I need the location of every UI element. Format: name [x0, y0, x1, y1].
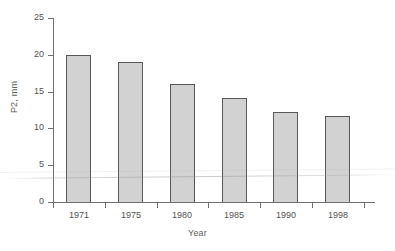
x-tick-label: 1975	[121, 210, 141, 220]
x-tick	[312, 203, 313, 208]
x-axis-label: Year	[0, 228, 395, 238]
x-tick-label: 1980	[172, 210, 192, 220]
x-tick-label: 1971	[69, 210, 89, 220]
x-tick	[208, 203, 209, 208]
y-tick-label: 10	[34, 122, 44, 132]
x-tick	[364, 203, 365, 208]
y-tick: 10	[48, 128, 53, 129]
bar	[273, 112, 298, 202]
y-tick: 20	[48, 55, 53, 56]
y-axis-line	[53, 18, 54, 203]
y-tick-label: 0	[39, 196, 44, 206]
x-tick	[105, 203, 106, 208]
y-tick: 15	[48, 92, 53, 93]
bar-chart-figure: P2, mm 0510152025 1971197519801985199019…	[0, 0, 395, 251]
x-tick	[157, 203, 158, 208]
y-tick: 5	[48, 165, 53, 166]
bar	[325, 116, 350, 202]
x-axis-line	[53, 202, 375, 203]
bar	[118, 62, 143, 202]
x-tick-label: 1990	[276, 210, 296, 220]
y-axis-label: P2, mm	[9, 57, 19, 137]
y-tick-label: 5	[39, 159, 44, 169]
x-tick	[53, 203, 54, 208]
y-tick-label: 25	[34, 12, 44, 22]
x-tick-label: 1985	[224, 210, 244, 220]
plot-area: 0510152025 197119751980198519901998	[53, 18, 375, 202]
bar	[66, 55, 91, 202]
x-tick-label: 1998	[328, 210, 348, 220]
bar	[222, 98, 247, 202]
x-tick	[260, 203, 261, 208]
bar	[170, 84, 195, 202]
y-tick: 25	[48, 18, 53, 19]
y-tick-label: 20	[34, 49, 44, 59]
y-tick-label: 15	[34, 86, 44, 96]
